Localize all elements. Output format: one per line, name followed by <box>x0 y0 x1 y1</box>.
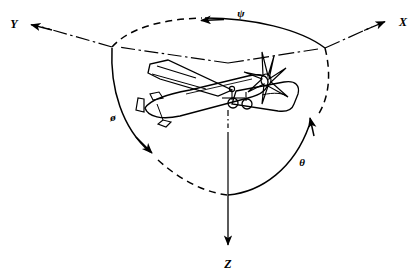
euler-angle-diagram: Y X Z ψ <box>0 0 418 277</box>
x-axis-label: X <box>398 15 408 29</box>
psi-arrowhead <box>201 19 224 20</box>
fuselage-body <box>145 75 268 118</box>
left-wing-detail <box>157 66 196 78</box>
pitch-angle-theta-arc: θ <box>228 48 329 195</box>
left-wing-edge <box>152 74 206 89</box>
psi-arc-dashed <box>112 18 202 47</box>
z-axis: Z <box>223 110 232 271</box>
psi-label: ψ <box>237 7 245 19</box>
tail-fin <box>136 98 144 112</box>
phi-arc-dashed <box>158 160 227 195</box>
fuselage <box>145 75 268 118</box>
y-axis-label: Y <box>10 17 19 31</box>
theta-arrowhead <box>310 118 314 136</box>
theta-label: θ <box>299 156 305 168</box>
tailplane-left <box>150 92 163 100</box>
psi-arc-solid <box>205 18 325 48</box>
theta-arc-dashed <box>318 48 329 115</box>
y-axis-arrowhead <box>31 25 52 30</box>
y-axis-line-inner <box>118 47 228 63</box>
phi-arrowhead <box>136 137 152 153</box>
tailplane-right <box>158 120 171 127</box>
diagram-canvas: Y X Z ψ <box>0 0 418 277</box>
theta-arc-solid <box>228 126 309 195</box>
y-axis: Y <box>10 17 228 63</box>
x-axis-arrowhead <box>364 22 385 31</box>
yaw-angle-psi-arc: ψ <box>112 7 325 48</box>
phi-label: ø <box>109 111 116 123</box>
main-gear-wheel-right <box>242 99 252 109</box>
airplane-illustration <box>136 52 298 127</box>
vertical-stabilizer <box>136 98 144 112</box>
y-axis-line-outer <box>42 27 112 47</box>
propeller-hub <box>261 74 271 86</box>
z-axis-label: Z <box>223 257 232 271</box>
